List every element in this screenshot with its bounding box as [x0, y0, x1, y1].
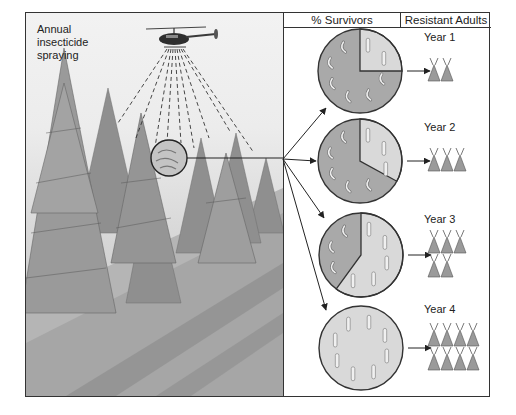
diagram-frame: Annual insecticide spraying % Survivors … — [25, 12, 490, 397]
resistant-moths-year-3 — [428, 230, 466, 277]
survivor-pies — [26, 13, 489, 396]
survivor-pie-year-3 — [319, 213, 403, 297]
survivor-pie-year-1 — [318, 29, 402, 113]
resistant-moths-year-2 — [428, 148, 466, 171]
survivor-pie-year-2 — [318, 119, 402, 203]
resistant-moths-year-1 — [428, 58, 453, 81]
survivor-pie-year-4 — [319, 306, 403, 390]
resistant-moths-year-4 — [428, 323, 479, 370]
fan-arrows — [283, 108, 326, 310]
